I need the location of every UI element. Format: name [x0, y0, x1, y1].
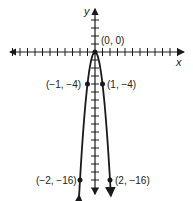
point-pos2 [108, 178, 113, 183]
y-axis [91, 9, 99, 194]
y-axis-label: y [83, 5, 91, 17]
label-pos1: (1, −4) [107, 79, 136, 90]
point-neg2 [78, 178, 83, 183]
label-origin: (0, 0) [101, 35, 124, 46]
x-axis-label: x [175, 56, 182, 68]
point-pos1 [100, 82, 105, 87]
point-origin [93, 50, 98, 55]
label-pos2: (2, −16) [115, 175, 150, 186]
label-neg1: (−1, −4) [46, 79, 81, 90]
parabola-graph: y x (0, 0) (−1, −4) (1, −4) (−2, −16) (2… [0, 0, 193, 201]
label-neg2: (−2, −16) [36, 175, 77, 186]
point-neg1 [85, 82, 90, 87]
